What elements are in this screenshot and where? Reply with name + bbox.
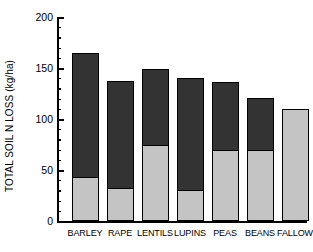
y-axis-minor-tick [57,88,61,89]
y-axis-major-tick [57,119,64,121]
bar[interactable] [282,109,309,221]
x-axis-category-label: FALLOW [277,228,313,238]
y-axis-minor-tick [57,160,61,161]
bar[interactable] [177,78,204,221]
y-axis-minor-tick [57,58,61,59]
bar-segment-upper [212,82,239,151]
bar[interactable] [212,82,239,221]
x-axis-category-label: RAPE [108,228,132,238]
y-axis-tick-label: 0 [47,215,53,227]
bar[interactable] [107,81,134,221]
y-axis-title: TOTAL SOIL N LOSS (kg/ha) [0,0,18,252]
bar-segment-lower [177,190,204,221]
y-axis-tick-label: 200 [35,11,53,23]
y-axis-minor-tick [57,150,61,151]
bar-segment-lower [72,177,99,221]
bar[interactable] [247,98,274,221]
x-axis-category-label: BEANS [245,228,275,238]
chart-figure: TOTAL SOIL N LOSS (kg/ha) 050100150200 B… [0,0,313,252]
plot-area: 050100150200 [57,17,307,221]
y-axis-minor-tick [57,48,61,49]
y-axis-major-tick [57,17,64,19]
y-axis-minor-tick [57,201,61,202]
x-axis-category-label: PEAS [213,228,237,238]
bar-segment-upper [247,98,274,151]
bar-segment-lower [142,145,169,222]
bar-segment-lower [107,188,134,221]
y-axis-minor-tick [57,109,61,110]
y-axis-tick-label: 150 [35,62,53,74]
y-axis-minor-tick [57,211,61,212]
y-axis-tick-label: 50 [41,164,53,176]
y-axis-minor-tick [57,27,61,28]
bar-segment-lower [247,150,274,221]
x-axis-category-label: LUPINS [174,228,206,238]
bar-segment-upper [142,69,169,146]
bar-segment-upper [107,81,134,189]
y-axis-minor-tick [57,99,61,100]
bar-segment-upper [177,78,204,191]
y-axis-minor-tick [57,190,61,191]
y-axis-minor-tick [57,139,61,140]
y-axis-minor-tick [57,78,61,79]
y-axis-major-tick [57,68,64,70]
bar[interactable] [72,53,99,221]
bar-segment-lower [212,150,239,221]
y-axis-major-tick [57,221,64,223]
y-axis-major-tick [57,170,64,172]
bar-segment-upper [72,53,99,179]
bar[interactable] [142,69,169,221]
x-axis-category-label: LENTILS [137,228,173,238]
x-axis-line [57,221,307,223]
bar-segment-lower [282,109,309,221]
y-axis-minor-tick [57,180,61,181]
y-axis-minor-tick [57,37,61,38]
x-axis-category-label: BARLEY [68,228,103,238]
y-axis-minor-tick [57,129,61,130]
y-axis-tick-label: 100 [35,113,53,125]
